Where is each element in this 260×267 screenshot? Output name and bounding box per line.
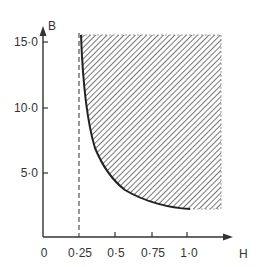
x-tick-label: 0·5	[107, 246, 125, 260]
x-axis-arrow-icon	[223, 234, 233, 241]
hatched-region	[81, 35, 221, 209]
y-tick-label: 5·0	[21, 166, 39, 180]
x-tick-label: 1·0	[180, 246, 198, 260]
chart: B H 15·0 10·0 5·0 0 0·25 0·5 0·75 1·0	[0, 0, 260, 267]
x-axis-label: H	[239, 247, 248, 261]
y-axis-arrow-icon	[40, 26, 47, 36]
x-tick-label: 0	[41, 246, 48, 260]
y-tick-label: 15·0	[14, 35, 38, 49]
y-tick-label: 10·0	[14, 101, 38, 115]
y-axis-label: B	[48, 19, 56, 33]
x-tick-label: 0·75	[141, 246, 165, 260]
x-tick-label: 0·25	[68, 246, 92, 260]
